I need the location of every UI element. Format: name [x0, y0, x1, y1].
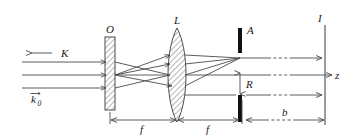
- aperture-bar-lower: [238, 95, 242, 122]
- converging-ray-1: [185, 55, 240, 58]
- image-plane-group: I: [317, 12, 325, 125]
- image-plane-label: I: [317, 12, 323, 24]
- focal-length-1-label: f: [140, 123, 145, 135]
- lens-body: [168, 28, 186, 122]
- converging-rays-group: [185, 55, 240, 95]
- wavevector-label: k: [31, 93, 37, 105]
- incident-rays-group: [22, 62, 106, 88]
- wavevector-subscript: 0: [38, 99, 42, 108]
- aperture-label: A: [246, 24, 254, 36]
- diffracted-ray-up-1: [115, 55, 170, 75]
- radius-dimension-group: R: [240, 73, 253, 94]
- aperture-bar-upper: [238, 28, 242, 53]
- ray-diagram-canvas: K k 0 O L: [0, 0, 350, 140]
- incident-wave-label-group: K: [32, 47, 69, 59]
- focal-dimensions-group: f f b: [110, 100, 324, 135]
- distance-b-label: b: [282, 106, 288, 118]
- diffracted-rays-group: [115, 55, 172, 88]
- object-label: O: [106, 23, 114, 35]
- object-plate-group: O: [105, 23, 115, 110]
- lens-label: L: [173, 14, 180, 26]
- optics-figure: K k 0 O L: [0, 0, 350, 140]
- radius-label: R: [245, 78, 253, 90]
- focal-length-2-label: f: [206, 123, 211, 135]
- wavevector-label-group: k 0: [31, 92, 42, 107]
- object-plate: [105, 37, 115, 110]
- lens-group: L: [168, 14, 186, 122]
- incident-wave-label: K: [60, 47, 69, 59]
- axis-label: z: [334, 69, 340, 81]
